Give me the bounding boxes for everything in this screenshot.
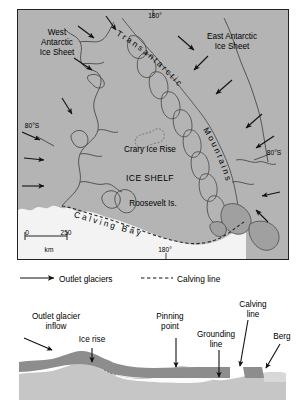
- label-outlet-glacier-inflow: Outlet glacier inflow: [14, 312, 98, 332]
- label-mountains: Mountains: [201, 126, 234, 184]
- panel-b-cross-section: (b): [0, 290, 305, 414]
- label-grounding-line: Grounding line: [184, 330, 248, 350]
- legend-label-calving-line: Calving line: [177, 274, 220, 284]
- berg: [243, 367, 264, 378]
- map-graphic: Transantarctic Mountains Calving Bay: [18, 10, 288, 259]
- label-transantarctic: Transantarctic: [115, 28, 186, 89]
- outlet-glacier-arrows: [22, 16, 280, 222]
- label-ice-rise: Ice rise: [62, 335, 122, 345]
- crary-ice-rise-outline: [135, 129, 164, 148]
- figure-legend: Outlet glaciers Calving line: [0, 266, 305, 290]
- west-coastline: [62, 22, 122, 208]
- label-pinning-point: Pinning point: [140, 312, 200, 332]
- map-frame: Transantarctic Mountains Calving Bay: [17, 9, 289, 260]
- east-coastline: [224, 18, 276, 184]
- distal-shelf-shading: [264, 372, 286, 382]
- label-calving-line: Calving line: [229, 300, 277, 320]
- label-berg: Berg: [266, 332, 298, 342]
- parallel-lines: [36, 136, 270, 160]
- legend-symbols: [0, 266, 305, 290]
- panel-a-map: (a): [0, 0, 305, 268]
- legend-label-outlet-glaciers: Outlet glaciers: [59, 274, 113, 284]
- figure-root: (a): [0, 0, 305, 414]
